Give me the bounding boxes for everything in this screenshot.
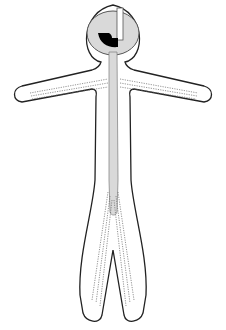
figure-diagram — [0, 0, 226, 330]
head-chamber — [87, 11, 139, 55]
head-slot — [117, 8, 123, 40]
diagram-canvas — [0, 0, 226, 330]
central-channel — [109, 52, 118, 215]
